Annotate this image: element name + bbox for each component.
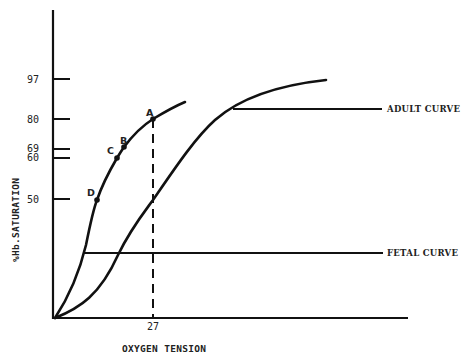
y-tick-label-80: 80: [27, 114, 39, 125]
oxygen-dissociation-diagram: 97 80 69 60 50 %Hb.SATURATION 27 OXYGEN …: [0, 0, 476, 362]
point-d: [94, 197, 100, 203]
data-points: [94, 116, 156, 203]
point-c: [114, 155, 120, 161]
x-tick-label-27: 27: [147, 321, 159, 332]
point-label-b: B: [120, 135, 127, 146]
adult-curve-label: ADULT CURVE: [386, 104, 460, 114]
y-tick-label-50: 50: [27, 194, 39, 205]
y-tick-label-97: 97: [27, 74, 39, 85]
point-label-d: D: [87, 187, 95, 198]
y-axis-title: %Hb.SATURATION: [10, 178, 21, 262]
y-ticks: [53, 79, 70, 199]
fetal-curve-label: FETAL CURVE: [387, 248, 458, 258]
x-axis-title: OXYGEN TENSION: [122, 343, 206, 354]
point-label-c: C: [107, 145, 114, 156]
y-tick-label-60: 60: [27, 152, 39, 163]
point-label-a: A: [146, 107, 154, 118]
